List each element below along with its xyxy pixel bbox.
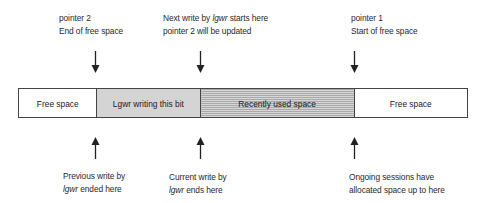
segment-label: Free space bbox=[390, 98, 432, 109]
next-write-line2: pointer 2 will be updated bbox=[163, 24, 268, 37]
pointer2-title: pointer 2 bbox=[59, 11, 123, 24]
segment-free-space-right: Free space bbox=[354, 89, 467, 117]
pointer2-subtitle: End of free space bbox=[59, 24, 123, 37]
segment-label: Recently used space bbox=[239, 98, 317, 109]
previous-write-label: Previous write by lgwr ended here bbox=[63, 169, 125, 195]
lgwr-italic: lgwr bbox=[212, 12, 227, 23]
pointer2-label: pointer 2 End of free space bbox=[59, 11, 123, 37]
segment-lgwr-writing: Lgwr writing this bit bbox=[96, 89, 200, 117]
current-write-label: Current write by lgwr ends here bbox=[169, 170, 227, 196]
ongoing-sessions-line2: allocated space up to here bbox=[349, 183, 445, 196]
pointer1-label: pointer 1 Start of free space bbox=[351, 11, 418, 37]
next-write-line1: Next write by lgwr starts here bbox=[163, 11, 268, 24]
arrow-down-icon bbox=[350, 51, 359, 73]
arrow-up-icon bbox=[91, 137, 100, 159]
log-buffer-bar: Free space Lgwr writing this bit Recentl… bbox=[18, 88, 468, 118]
next-write-label: Next write by lgwr starts here pointer 2… bbox=[163, 11, 268, 37]
current-write-line1: Current write by bbox=[169, 170, 227, 183]
arrow-down-icon bbox=[196, 51, 205, 73]
arrow-down-icon bbox=[91, 51, 100, 73]
lgwr-italic: lgwr bbox=[63, 183, 78, 194]
current-write-line2: lgwr ends here bbox=[169, 183, 227, 196]
previous-write-line2: lgwr ended here bbox=[63, 182, 125, 195]
ongoing-sessions-line1: Ongoing sessions have bbox=[349, 170, 445, 183]
segment-recently-used: Recently used space bbox=[200, 89, 354, 117]
previous-write-line1: Previous write by bbox=[63, 169, 125, 182]
arrow-up-icon bbox=[350, 137, 359, 159]
pointer1-subtitle: Start of free space bbox=[351, 24, 418, 37]
segment-label: Lgwr writing this bit bbox=[113, 98, 184, 109]
ongoing-sessions-label: Ongoing sessions have allocated space up… bbox=[349, 170, 445, 196]
segment-label: Free space bbox=[37, 98, 79, 109]
segment-free-space-left: Free space bbox=[19, 89, 96, 117]
pointer1-title: pointer 1 bbox=[351, 11, 418, 24]
arrow-up-icon bbox=[196, 137, 205, 159]
lgwr-italic: lgwr bbox=[169, 184, 184, 195]
